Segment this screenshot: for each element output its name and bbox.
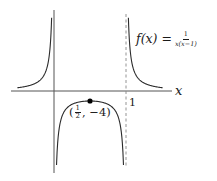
fraction-denominator: x(x−1) — [175, 40, 197, 48]
point-label: ( 1 2 , −4) — [69, 105, 111, 120]
point-label-fraction: 1 2 — [75, 105, 81, 120]
tick-label-one: 1 — [129, 97, 136, 108]
fraction-numerator: 1 — [183, 31, 189, 40]
function-label: f(x) = 1 x(x−1) — [136, 31, 197, 47]
curve-right-branch — [128, 18, 162, 88]
local-maximum-point — [87, 98, 92, 103]
function-fraction: 1 x(x−1) — [175, 31, 197, 47]
function-graph — [0, 0, 217, 181]
point-label-rest: , −4) — [82, 107, 111, 119]
curve-left-branch — [17, 18, 51, 88]
x-axis-label: x — [175, 84, 182, 97]
function-lhs: f(x) = — [136, 33, 172, 46]
point-fraction-denominator: 2 — [76, 113, 80, 120]
point-label-open: ( — [69, 107, 74, 119]
